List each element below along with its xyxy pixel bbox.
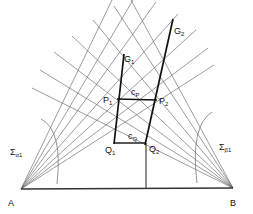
pencil-rays-from-A: [21, 0, 214, 189]
ray-b-3: [54, 52, 233, 188]
geometric-diagram: A B G1 G2 P1 P2 Q1 Q2 cP cQ: [0, 0, 253, 214]
label-G1-base: G: [124, 54, 131, 64]
label-B: B: [230, 198, 236, 208]
label-P1: P1: [103, 95, 113, 106]
baseline-AB: [21, 188, 233, 189]
diagram-canvas: A B G1 G2 P1 P2 Q1 Q2 cP cQ: [0, 0, 253, 214]
label-sigma-alpha-sub: α1: [16, 152, 23, 158]
label-G2-base: G: [174, 26, 181, 36]
label-Q2-base: Q: [149, 144, 156, 154]
label-cP-sub: P: [136, 92, 140, 98]
label-Q2: Q2: [149, 144, 160, 155]
ray-a-3: [21, 30, 196, 189]
bold-line-Q2-G2: [145, 19, 173, 145]
label-Q1-base: Q: [105, 145, 112, 155]
label-cQ-sub: Q: [133, 136, 138, 142]
label-A: A: [8, 198, 14, 208]
ray-a-7: [21, 0, 112, 189]
ray-a-2: [21, 48, 208, 189]
label-Q1: Q1: [105, 145, 116, 156]
ray-b-2: [40, 70, 233, 188]
label-sigma-alpha-1: Σα1: [10, 147, 23, 158]
label-sigma-beta-1: Σβ1: [219, 142, 232, 153]
label-G1: G1: [124, 54, 135, 65]
label-P2-sub: 2: [165, 101, 169, 107]
label-G2-sub: 2: [181, 31, 185, 37]
label-G1-sub: 1: [131, 59, 135, 65]
label-sigma-beta-sub: β1: [225, 147, 232, 153]
label-Q1-sub: 1: [112, 150, 116, 156]
label-cP: cP: [131, 87, 140, 98]
label-G2: G2: [174, 26, 185, 37]
label-P1-sub: 1: [109, 100, 113, 106]
label-cQ: cQ: [128, 131, 138, 142]
chord-cP: [117, 99, 157, 100]
label-P2: P2: [159, 96, 169, 107]
ray-a-6: [21, 0, 133, 189]
label-Q2-sub: 2: [156, 149, 160, 155]
